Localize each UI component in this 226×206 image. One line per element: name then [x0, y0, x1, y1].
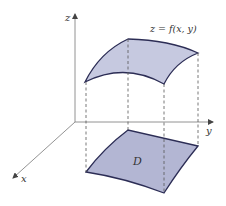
- region-d: [86, 130, 198, 193]
- surface-over-region-diagram: z y x z = f(x, y) D: [0, 0, 226, 206]
- x-axis-label: x: [21, 173, 27, 184]
- y-axis-label: y: [205, 125, 212, 136]
- x-axis: [13, 122, 75, 178]
- surface-patch: [85, 39, 198, 84]
- diagram-canvas: z y x z = f(x, y) D: [0, 0, 226, 206]
- surface-label: z = f(x, y): [149, 23, 197, 34]
- z-axis-label: z: [64, 12, 71, 23]
- region-label: D: [132, 155, 142, 168]
